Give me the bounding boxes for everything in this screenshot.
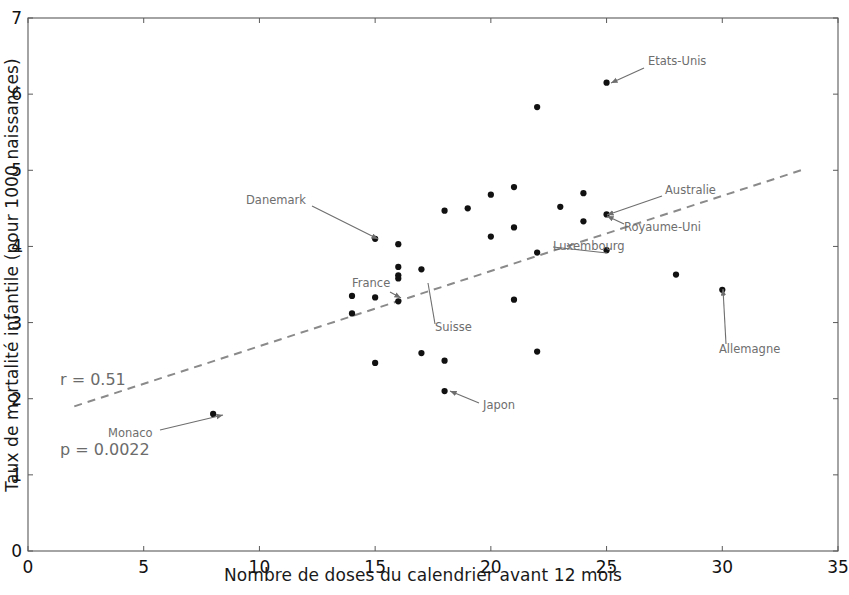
x-axis-title: Nombre de doses du calendrier avant 12 m… bbox=[0, 565, 846, 585]
scatter-point bbox=[580, 190, 586, 196]
scatter-point bbox=[418, 266, 424, 272]
annotation-label: Royaume-Uni bbox=[624, 220, 701, 234]
scatter-point bbox=[488, 192, 494, 198]
annotation-label: Allemagne bbox=[719, 342, 780, 356]
scatter-point bbox=[719, 287, 725, 293]
annotation-label: Danemark bbox=[246, 193, 306, 207]
annotation-arrow bbox=[312, 206, 378, 239]
trendline bbox=[74, 170, 801, 406]
scatter-point bbox=[465, 205, 471, 211]
regression-trendline bbox=[74, 170, 801, 406]
annotation-arrow bbox=[607, 196, 662, 215]
scatter-point bbox=[372, 360, 378, 366]
data-points bbox=[210, 80, 725, 417]
annotation-arrows bbox=[160, 68, 726, 430]
scatter-point bbox=[395, 275, 401, 281]
scatter-point bbox=[395, 241, 401, 247]
scatter-point bbox=[673, 271, 679, 277]
annotation-arrow bbox=[160, 415, 223, 430]
scatter-point bbox=[349, 310, 355, 316]
scatter-point bbox=[441, 388, 447, 394]
scatter-point bbox=[511, 224, 517, 230]
scatter-point bbox=[534, 348, 540, 354]
p-statistic: p = 0.0022 bbox=[60, 438, 150, 461]
scatter-point bbox=[534, 249, 540, 255]
scatter-point bbox=[418, 350, 424, 356]
scatter-point bbox=[395, 264, 401, 270]
annotation-label: Luxembourg bbox=[553, 239, 625, 253]
scatter-point bbox=[441, 358, 447, 364]
r-statistic: r = 0.51 bbox=[60, 368, 150, 391]
annotation-arrow bbox=[607, 216, 624, 224]
scatter-point bbox=[372, 294, 378, 300]
annotation-label: France bbox=[352, 276, 390, 290]
annotation-label: Suisse bbox=[435, 320, 472, 334]
scatter-point bbox=[511, 184, 517, 190]
scatter-point bbox=[557, 204, 563, 210]
scatter-point bbox=[210, 411, 216, 417]
scatter-point bbox=[603, 80, 609, 86]
annotation-label: Australie bbox=[665, 183, 716, 197]
annotation-arrow bbox=[390, 292, 401, 298]
scatter-point bbox=[511, 297, 517, 303]
annotation-arrow bbox=[723, 289, 726, 344]
annotation-label: Etats-Unis bbox=[648, 54, 706, 68]
annotation-label: Japon bbox=[483, 398, 515, 412]
scatter-point bbox=[580, 218, 586, 224]
scatter-point bbox=[349, 293, 355, 299]
y-axis-title: Taux de mortalité infantile (pour 1000 n… bbox=[2, 5, 22, 545]
scatter-point bbox=[441, 208, 447, 214]
annotation-arrow bbox=[611, 68, 644, 83]
scatter-point bbox=[534, 104, 540, 110]
scatter-point bbox=[488, 233, 494, 239]
correlation-stats: r = 0.51 p = 0.0022 bbox=[60, 322, 150, 508]
scatter-point bbox=[395, 298, 401, 304]
annotation-arrow bbox=[450, 391, 479, 403]
